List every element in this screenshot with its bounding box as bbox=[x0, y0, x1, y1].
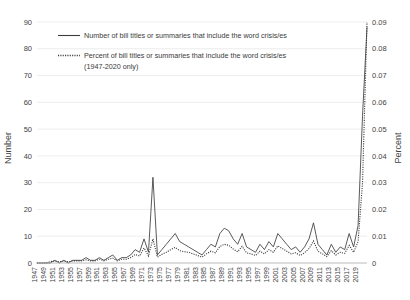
x-tick-label: 1979 bbox=[174, 267, 181, 283]
x-tick-label: 2015 bbox=[334, 267, 341, 283]
y-tick-label-left: 90 bbox=[24, 18, 32, 27]
x-tick-label: 1993 bbox=[236, 267, 243, 283]
x-tick-label: 2009 bbox=[307, 267, 314, 283]
legend-label-number: Number of bill titles or summaries that … bbox=[84, 31, 287, 40]
y-tick-label-right: 0.04 bbox=[372, 152, 387, 161]
x-tick-label: 1967 bbox=[120, 267, 127, 283]
legend-label-percent-note: (1947-2020 only) bbox=[84, 62, 138, 71]
x-tick-label: 1999 bbox=[263, 267, 270, 283]
y-tick-label-right: 0 bbox=[372, 259, 376, 268]
y-tick-label-left: 50 bbox=[24, 125, 32, 134]
x-tick-label: 2013 bbox=[325, 267, 332, 283]
x-tick-label: 1973 bbox=[147, 267, 154, 283]
y-axis-left-title: Number bbox=[3, 132, 13, 164]
y-tick-label-right: 0.03 bbox=[372, 178, 387, 187]
x-tick-label: 2003 bbox=[281, 267, 288, 283]
y-tick-label-left: 10 bbox=[24, 232, 32, 241]
y-tick-label-left: 0 bbox=[28, 259, 32, 268]
legend-label-percent: Percent of bill titles or summaries that… bbox=[84, 51, 287, 60]
x-tick-label: 2019 bbox=[352, 267, 359, 283]
x-tick-label: 1963 bbox=[102, 267, 109, 283]
y-tick-label-right: 0.02 bbox=[372, 205, 387, 214]
y-tick-label-right: 0.08 bbox=[372, 44, 387, 53]
x-tick-label: 1965 bbox=[111, 267, 118, 283]
x-tick-label: 2005 bbox=[290, 267, 297, 283]
y-axis-left-ticks: 0102030405060708090 bbox=[24, 18, 32, 268]
x-tick-label: 1983 bbox=[192, 267, 199, 283]
x-tick-label: 1997 bbox=[254, 267, 261, 283]
y-tick-label-right: 0.05 bbox=[372, 125, 387, 134]
y-tick-label-left: 40 bbox=[24, 152, 32, 161]
x-axis-ticks: 1947194919511953195519571959196119631965… bbox=[31, 267, 359, 283]
x-tick-label: 1987 bbox=[209, 267, 216, 283]
y-tick-label-left: 60 bbox=[24, 98, 32, 107]
y-tick-label-right: 0.09 bbox=[372, 18, 387, 27]
x-tick-label: 1961 bbox=[93, 267, 100, 283]
x-tick-label: 1975 bbox=[156, 267, 163, 283]
chart-legend: Number of bill titles or summaries that … bbox=[58, 31, 287, 71]
x-tick-label: 1953 bbox=[58, 267, 65, 283]
x-tick-label: 1947 bbox=[31, 267, 38, 283]
x-tick-label: 1955 bbox=[67, 267, 74, 283]
x-tick-label: 1985 bbox=[200, 267, 207, 283]
x-tick-label: 1969 bbox=[129, 267, 136, 283]
x-tick-label: 1959 bbox=[85, 267, 92, 283]
y-tick-label-right: 0.07 bbox=[372, 71, 387, 80]
y-tick-label-left: 80 bbox=[24, 44, 32, 53]
x-tick-label: 2011 bbox=[316, 267, 323, 282]
x-tick-label: 1991 bbox=[227, 267, 234, 283]
x-tick-label: 1957 bbox=[76, 267, 83, 283]
y-tick-label-right: 0.01 bbox=[372, 232, 387, 241]
y-tick-label-left: 70 bbox=[24, 71, 32, 80]
x-tick-label: 1981 bbox=[183, 267, 190, 283]
y-axis-right-ticks: 00.010.020.030.040.050.060.070.080.09 bbox=[372, 18, 387, 268]
x-tick-label: 1971 bbox=[138, 267, 145, 283]
x-tick-label: 1951 bbox=[49, 267, 56, 283]
x-tick-label: 1989 bbox=[218, 267, 225, 283]
x-tick-label: 2001 bbox=[272, 267, 279, 283]
y-tick-label-left: 20 bbox=[24, 205, 32, 214]
chart-container: 0102030405060708090 00.010.020.030.040.0… bbox=[0, 0, 410, 300]
x-tick-label: 1949 bbox=[40, 267, 47, 283]
x-tick-label: 1995 bbox=[245, 267, 252, 283]
line-chart: 0102030405060708090 00.010.020.030.040.0… bbox=[0, 0, 410, 300]
y-tick-label-left: 30 bbox=[24, 178, 32, 187]
x-tick-label: 1977 bbox=[165, 267, 172, 283]
x-tick-label: 2017 bbox=[343, 267, 350, 283]
x-tick-label: 2007 bbox=[299, 267, 306, 283]
y-axis-right-title: Percent bbox=[393, 132, 403, 164]
y-tick-label-right: 0.06 bbox=[372, 98, 387, 107]
